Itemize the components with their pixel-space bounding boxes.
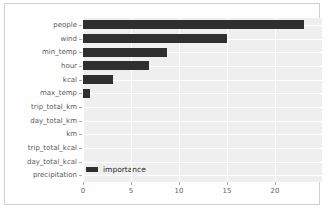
gridline-horizontal [83, 107, 322, 108]
gridline-horizontal [83, 148, 322, 149]
y-axis-tick [79, 148, 82, 149]
gridline-horizontal [83, 121, 322, 122]
y-axis-label-precipitation: precipitation [7, 170, 77, 180]
y-axis-tick [79, 25, 82, 26]
x-axis-tick-label: 15 [215, 187, 239, 196]
x-axis-tick-label: 10 [167, 187, 191, 196]
gridline-horizontal [83, 80, 322, 81]
x-axis-tick [227, 182, 228, 185]
y-axis-tick [79, 107, 82, 108]
bar-hour [83, 61, 149, 70]
x-axis-tick-label: 0 [71, 187, 95, 196]
gridline-horizontal [83, 162, 322, 163]
y-axis-label-trip_total_kcal: trip_total_kcal [7, 143, 77, 153]
y-axis-label-max_temp: max_temp [7, 88, 77, 98]
y-axis-label-hour: hour [7, 61, 77, 71]
y-axis-label-trip_total_km: trip_total_km [7, 102, 77, 112]
x-axis-tick-label: 5 [119, 187, 143, 196]
x-axis-tick [275, 182, 276, 185]
x-axis-tick [83, 182, 84, 185]
y-axis-label-wind: wind [7, 34, 77, 44]
y-axis-label-day_total_km: day_total_km [7, 116, 77, 126]
y-axis-tick [79, 134, 82, 135]
x-axis-tick [179, 182, 180, 185]
x-axis-tick [131, 182, 132, 185]
bar-max_temp [83, 89, 90, 98]
gridline-vertical [275, 18, 276, 182]
y-axis-label-kcal: kcal [7, 75, 77, 85]
y-axis-label-min_temp: min_temp [7, 47, 77, 57]
gridline-horizontal [83, 175, 322, 176]
bar-people [83, 20, 304, 29]
legend: importance [86, 165, 146, 174]
gridline-vertical [227, 18, 228, 182]
gridline-horizontal [83, 93, 322, 94]
bar-kcal [83, 75, 113, 84]
bar-min_temp [83, 48, 167, 57]
bar-wind [83, 34, 227, 43]
legend-label: importance [103, 165, 146, 174]
plot-area: importance peoplewindmin_temphourkcalmax… [83, 18, 322, 182]
y-axis-tick [79, 66, 82, 67]
bar-chart-figure: importance peoplewindmin_temphourkcalmax… [0, 0, 330, 213]
y-axis-label-people: people [7, 20, 77, 30]
y-axis-tick [79, 175, 82, 176]
y-axis-label-km: km [7, 129, 77, 139]
y-axis-label-day_total_kcal: day_total_kcal [7, 157, 77, 167]
x-axis-tick-label: 20 [263, 187, 287, 196]
y-axis-tick [79, 121, 82, 122]
gridline-horizontal [83, 134, 322, 135]
y-axis-tick [79, 93, 82, 94]
y-axis-tick [79, 162, 82, 163]
legend-swatch [86, 167, 98, 172]
figure-frame: importance peoplewindmin_temphourkcalmax… [4, 3, 320, 205]
y-axis-tick [79, 39, 82, 40]
y-axis-tick [79, 52, 82, 53]
y-axis-tick [79, 80, 82, 81]
